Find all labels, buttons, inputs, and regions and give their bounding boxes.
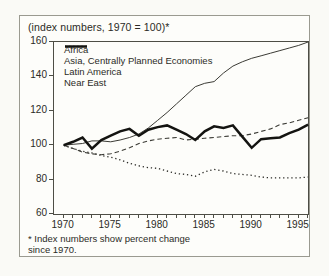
legend-item-asia-cpe: Asia, Centrally Planned Economies (64, 55, 212, 66)
y-axis-label: 120 (19, 104, 47, 115)
x-axis-tick (176, 214, 177, 218)
chart-legend: Africa Asia, Centrally Planned Economies… (64, 44, 212, 88)
x-axis-tick (91, 214, 92, 218)
x-axis-tick (166, 214, 167, 218)
x-axis-label: 1990 (236, 219, 266, 230)
series-line-latin-america (64, 118, 308, 155)
plot-area: Africa Asia, Centrally Planned Economies… (53, 41, 309, 215)
figure-frame: (index numbers, 1970 = 100)* Africa Asia… (19, 15, 310, 257)
x-axis-tick (232, 214, 233, 218)
x-axis-label: 1995 (283, 219, 313, 230)
y-axis-tick (49, 213, 53, 214)
y-axis-label: 140 (19, 69, 47, 80)
near-east-thick-line-icon (64, 44, 88, 49)
x-axis-tick (194, 214, 195, 218)
x-axis-tick (288, 214, 289, 218)
x-axis-tick (138, 214, 139, 218)
x-axis-tick (129, 214, 130, 218)
series-line-africa (64, 145, 308, 178)
x-axis-tick (251, 214, 252, 218)
y-axis-label: 80 (19, 173, 47, 184)
footnote-line-1: * Index numbers show percent change (28, 233, 190, 244)
x-axis-tick (223, 214, 224, 218)
y-axis-tick (49, 75, 53, 76)
x-axis-tick (279, 214, 280, 218)
x-axis-tick (110, 214, 111, 218)
legend-label-near-east: Near East (64, 77, 106, 88)
x-axis-label: 1970 (48, 219, 78, 230)
legend-label-latin-america: Latin America (64, 66, 122, 77)
x-axis-label: 1985 (189, 219, 219, 230)
x-axis-tick (307, 214, 308, 218)
x-axis-tick (147, 214, 148, 218)
x-axis-tick (100, 214, 101, 218)
footnote-line-2: since 1970. (28, 244, 77, 255)
x-axis-label: 1975 (95, 219, 125, 230)
x-axis-tick (63, 214, 64, 218)
x-axis-tick (72, 214, 73, 218)
legend-item-latin-america: Latin America (64, 66, 212, 77)
x-axis-label: 1980 (142, 219, 172, 230)
x-axis-tick (185, 214, 186, 218)
chart-title: (index numbers, 1970 = 100)* (28, 21, 169, 33)
y-axis-label: 100 (19, 138, 47, 149)
x-axis-tick (260, 214, 261, 218)
x-axis-tick (204, 214, 205, 218)
x-axis-tick (270, 214, 271, 218)
y-axis-tick (49, 144, 53, 145)
y-axis-label: 60 (19, 207, 47, 218)
x-axis-tick (157, 214, 158, 218)
x-axis-tick (82, 214, 83, 218)
x-axis-tick (213, 214, 214, 218)
legend-item-near-east: Near East (64, 77, 212, 88)
x-axis-tick (241, 214, 242, 218)
y-axis-tick (49, 41, 53, 42)
y-axis-tick (49, 110, 53, 111)
x-axis-tick (119, 214, 120, 218)
y-axis-tick (49, 179, 53, 180)
legend-label-asia-cpe: Asia, Centrally Planned Economies (64, 55, 212, 66)
y-axis-label: 160 (19, 35, 47, 46)
x-axis-tick (298, 214, 299, 218)
